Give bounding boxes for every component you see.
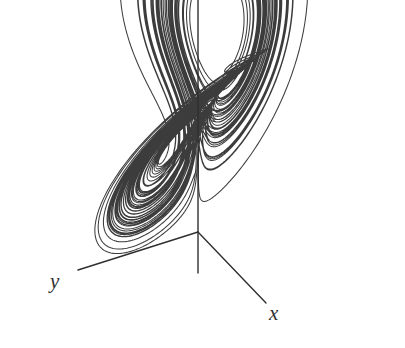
axis-label-x: x bbox=[269, 303, 278, 324]
trajectory-group bbox=[95, 0, 308, 254]
attractor-canvas bbox=[0, 0, 405, 348]
axis-label-y: y bbox=[50, 271, 59, 292]
lorenz-attractor-figure: y x bbox=[0, 0, 405, 348]
axis-line-x bbox=[198, 232, 266, 303]
lorenz-trajectory-path bbox=[95, 0, 308, 254]
